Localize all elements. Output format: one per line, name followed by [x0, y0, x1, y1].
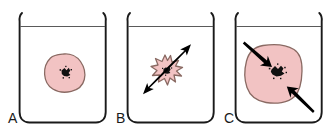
panel-b: B — [116, 13, 214, 126]
nucleus-speck — [284, 67, 286, 69]
panel-label-b: B — [116, 110, 125, 126]
nucleus-speck — [165, 75, 166, 76]
nucleus-speck — [273, 78, 275, 80]
nucleus-speck — [65, 66, 66, 67]
cell-a — [45, 54, 85, 92]
nucleus-speck — [269, 68, 271, 70]
panel-label-a: A — [8, 110, 18, 126]
nucleus-speck — [69, 77, 70, 78]
panel-label-c: C — [224, 110, 234, 126]
nucleus-speck — [63, 77, 64, 78]
panel-a: A — [8, 13, 106, 126]
nucleus-speck — [280, 78, 281, 79]
nucleus-speck — [286, 72, 287, 73]
osmosis-figure: A — [0, 0, 329, 135]
nucleus-speck — [71, 69, 72, 70]
arrows-b — [143, 44, 191, 94]
nucleus-speck — [162, 68, 163, 69]
nucleus-speck — [277, 63, 278, 64]
nucleus-speck — [60, 69, 62, 71]
nucleus-speck — [171, 67, 172, 68]
panel-c: C — [224, 13, 322, 126]
